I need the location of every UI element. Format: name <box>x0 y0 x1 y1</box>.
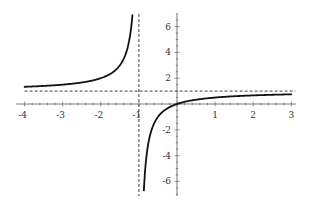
y-tick-label: -4 <box>162 151 171 161</box>
y-tick-label: 6 <box>165 22 171 32</box>
y-tick-label: -2 <box>162 125 171 135</box>
function-plot: -4-3-2-1123642-2-4-6 <box>0 0 314 207</box>
x-tick-label: -1 <box>133 110 142 120</box>
y-tick-label: 2 <box>165 73 171 83</box>
curve-left-branch <box>25 15 133 87</box>
x-tick-label: -2 <box>94 110 103 120</box>
axes <box>16 14 296 196</box>
x-tick-label: -4 <box>18 110 27 120</box>
y-tick-label: 4 <box>165 47 171 57</box>
x-tick-label: -3 <box>56 110 65 120</box>
x-tick-label: 1 <box>212 110 218 120</box>
x-tick-label: 2 <box>250 110 256 120</box>
y-tick-label: -6 <box>162 176 171 186</box>
curves <box>25 15 292 190</box>
x-tick-label: 3 <box>288 110 294 120</box>
asymptotes <box>25 14 296 196</box>
